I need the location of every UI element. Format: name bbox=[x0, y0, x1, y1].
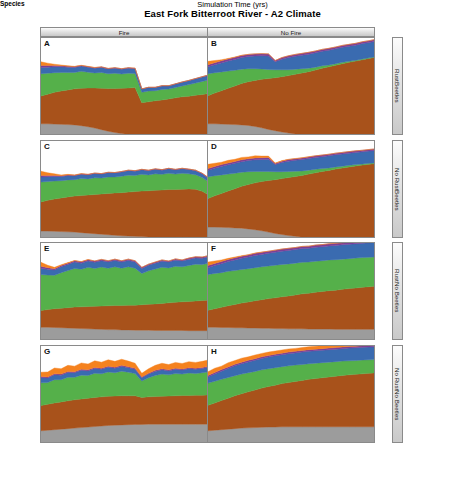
row-strip-line1: No Rust bbox=[394, 368, 401, 390]
figure-title: East Fork Bitterroot River - A2 Climate bbox=[0, 8, 465, 19]
panel-label-f: F bbox=[211, 244, 216, 253]
panel-label-a: A bbox=[44, 39, 50, 48]
panel-plot-d bbox=[208, 141, 375, 238]
row-strip-line1: Rust bbox=[394, 69, 401, 82]
panel-label-e: E bbox=[44, 244, 49, 253]
row-strip-rust-beetles: Rust Beetles bbox=[392, 37, 403, 135]
legend-title: Species bbox=[0, 0, 25, 7]
panel-label-h: H bbox=[211, 347, 217, 356]
row-strip-line2: No Beetles bbox=[394, 282, 401, 312]
panel-plot-e bbox=[41, 243, 208, 340]
panel-d: D bbox=[207, 140, 375, 238]
panel-c: C bbox=[40, 140, 208, 238]
row-strip-line1: No Rust bbox=[394, 168, 401, 190]
panel-plot-b bbox=[208, 38, 375, 135]
x-axis-label: Simulation Time (yrs) bbox=[0, 0, 465, 9]
panel-plot-g bbox=[41, 346, 208, 443]
panel-label-g: G bbox=[44, 347, 50, 356]
row-strip-line2: Beetles bbox=[394, 190, 401, 211]
figure-root: East Fork Bitterroot River - A2 Climate … bbox=[0, 0, 465, 483]
column-strip-label: No Fire bbox=[281, 29, 301, 36]
panel-h: H bbox=[207, 345, 375, 443]
legend: Species bbox=[0, 0, 25, 10]
column-strip-label: Fire bbox=[119, 29, 130, 36]
row-strip-norust-nobeetles: No Rust No Beetles bbox=[392, 345, 403, 443]
row-strip-line1: Rust bbox=[394, 269, 401, 282]
panel-plot-c bbox=[41, 141, 208, 238]
column-strip-no-fire: No Fire bbox=[207, 27, 375, 37]
column-strip-fire: Fire bbox=[40, 27, 208, 37]
panel-plot-f bbox=[208, 243, 375, 340]
panel-a: A bbox=[40, 37, 208, 135]
row-strip-rust-nobeetles: Rust No Beetles bbox=[392, 242, 403, 340]
area-pipo bbox=[208, 427, 375, 443]
panel-label-c: C bbox=[44, 142, 50, 151]
row-strip-line2: No Beetles bbox=[394, 390, 401, 420]
row-strip-norust-beetles: No Rust Beetles bbox=[392, 140, 403, 238]
panel-plot-h bbox=[208, 346, 375, 443]
panel-plot-a bbox=[41, 38, 208, 135]
panel-b: B bbox=[207, 37, 375, 135]
row-strip-line2: Beetles bbox=[394, 82, 401, 103]
panel-label-d: D bbox=[211, 142, 217, 151]
panel-f: F bbox=[207, 242, 375, 340]
panel-e: E bbox=[40, 242, 208, 340]
panel-g: G bbox=[40, 345, 208, 443]
panel-label-b: B bbox=[211, 39, 217, 48]
